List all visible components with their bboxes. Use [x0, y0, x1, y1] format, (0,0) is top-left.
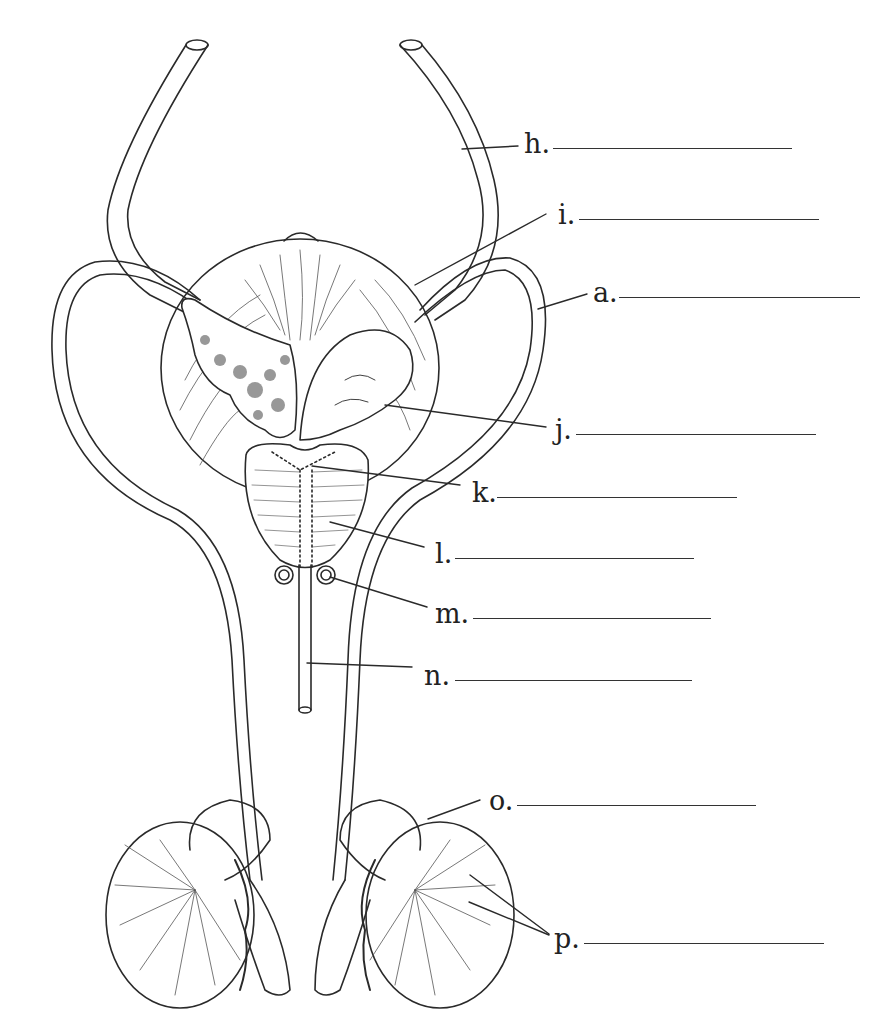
testis-right — [340, 800, 514, 1008]
answer-blank-i[interactable] — [579, 219, 819, 220]
ureter-right — [400, 40, 498, 320]
answer-blank-n[interactable] — [455, 680, 692, 681]
bulbourethral-glands — [275, 566, 335, 584]
urethra — [299, 565, 311, 713]
answer-blank-p[interactable] — [584, 943, 824, 944]
label-i: i. — [558, 201, 575, 228]
label-j: j. — [555, 416, 572, 443]
male-reproductive-system-illustration — [0, 0, 891, 1026]
label-l: l. — [435, 540, 452, 567]
answer-blank-k[interactable] — [497, 497, 737, 498]
label-m: m. — [435, 600, 469, 627]
answer-blank-h[interactable] — [553, 148, 792, 149]
prostate-gland — [245, 444, 368, 570]
label-a: a. — [593, 279, 618, 306]
answer-blank-l[interactable] — [455, 558, 694, 559]
answer-blank-j[interactable] — [576, 434, 816, 435]
label-k: k. — [472, 479, 497, 506]
answer-blank-o[interactable] — [517, 805, 756, 806]
label-h: h. — [524, 130, 550, 157]
answer-blank-a[interactable] — [619, 297, 860, 298]
label-n: n. — [424, 662, 450, 689]
label-p: p. — [554, 925, 580, 952]
anatomy-diagram: h. i. a. j. k. l. m. n. o. p. — [0, 0, 891, 1026]
label-o: o. — [489, 787, 513, 814]
answer-blank-m[interactable] — [473, 618, 711, 619]
